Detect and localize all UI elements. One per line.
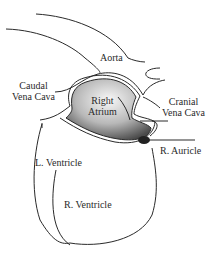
label-l-ventricle: L. Ventricle [35, 158, 82, 168]
label-caudal-vena-cava: Caudal Vena Cava [12, 81, 55, 102]
cranial-vc-line-2 [143, 97, 160, 108]
label-aorta: Aorta [100, 53, 123, 63]
heart-diagram [0, 0, 217, 258]
cranial-vc-line-1 [143, 80, 165, 95]
auricle-tip [138, 136, 150, 144]
vessel-u-curve [146, 68, 160, 79]
ventricle-outline [34, 124, 156, 244]
label-r-auricle: R. Auricle [160, 146, 201, 156]
aorta-lower-line [6, 29, 100, 73]
label-cranial-vena-cava: Cranial Vena Cava [162, 97, 205, 118]
label-right-atrium: Right Atrium [88, 96, 117, 117]
label-r-ventricle: R. Ventricle [64, 200, 112, 210]
